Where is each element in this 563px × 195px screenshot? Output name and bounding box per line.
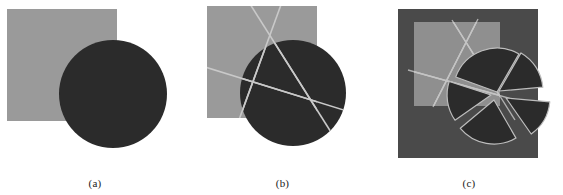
panel-b-graphic [190,0,375,170]
panel-c-caption: (c) [375,177,563,189]
panel-c-graphic [375,0,563,170]
panel-a: (a) [0,0,190,195]
panel-b: (b) [190,0,375,195]
figure-root: (a) (b) [0,0,563,195]
dark-circle-a [59,40,167,148]
panel-c: (c) [375,0,563,195]
panel-a-caption: (a) [0,177,190,189]
panel-b-caption: (b) [190,177,375,189]
panel-a-graphic [0,0,190,170]
